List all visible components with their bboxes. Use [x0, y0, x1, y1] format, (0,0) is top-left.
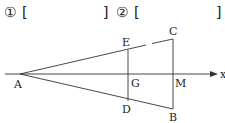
diagram-figure: ① [ ] ② [ ] x A E C G M D B: [0, 0, 225, 123]
point-label-a: A: [13, 78, 23, 91]
point-label-g: G: [131, 77, 140, 90]
point-label-d: D: [122, 103, 131, 116]
segment-to-c: [152, 39, 173, 44]
axis-arrow-icon: [210, 71, 218, 77]
point-label-e: E: [122, 36, 130, 49]
segment-a-b: [20, 74, 173, 109]
segment-a-e: [20, 45, 146, 74]
geometry-svg: x A E C G M D B: [0, 0, 225, 123]
axis-label: x: [220, 68, 225, 81]
point-label-m: M: [175, 77, 186, 90]
point-label-b: B: [169, 111, 177, 123]
point-label-c: C: [169, 25, 177, 38]
